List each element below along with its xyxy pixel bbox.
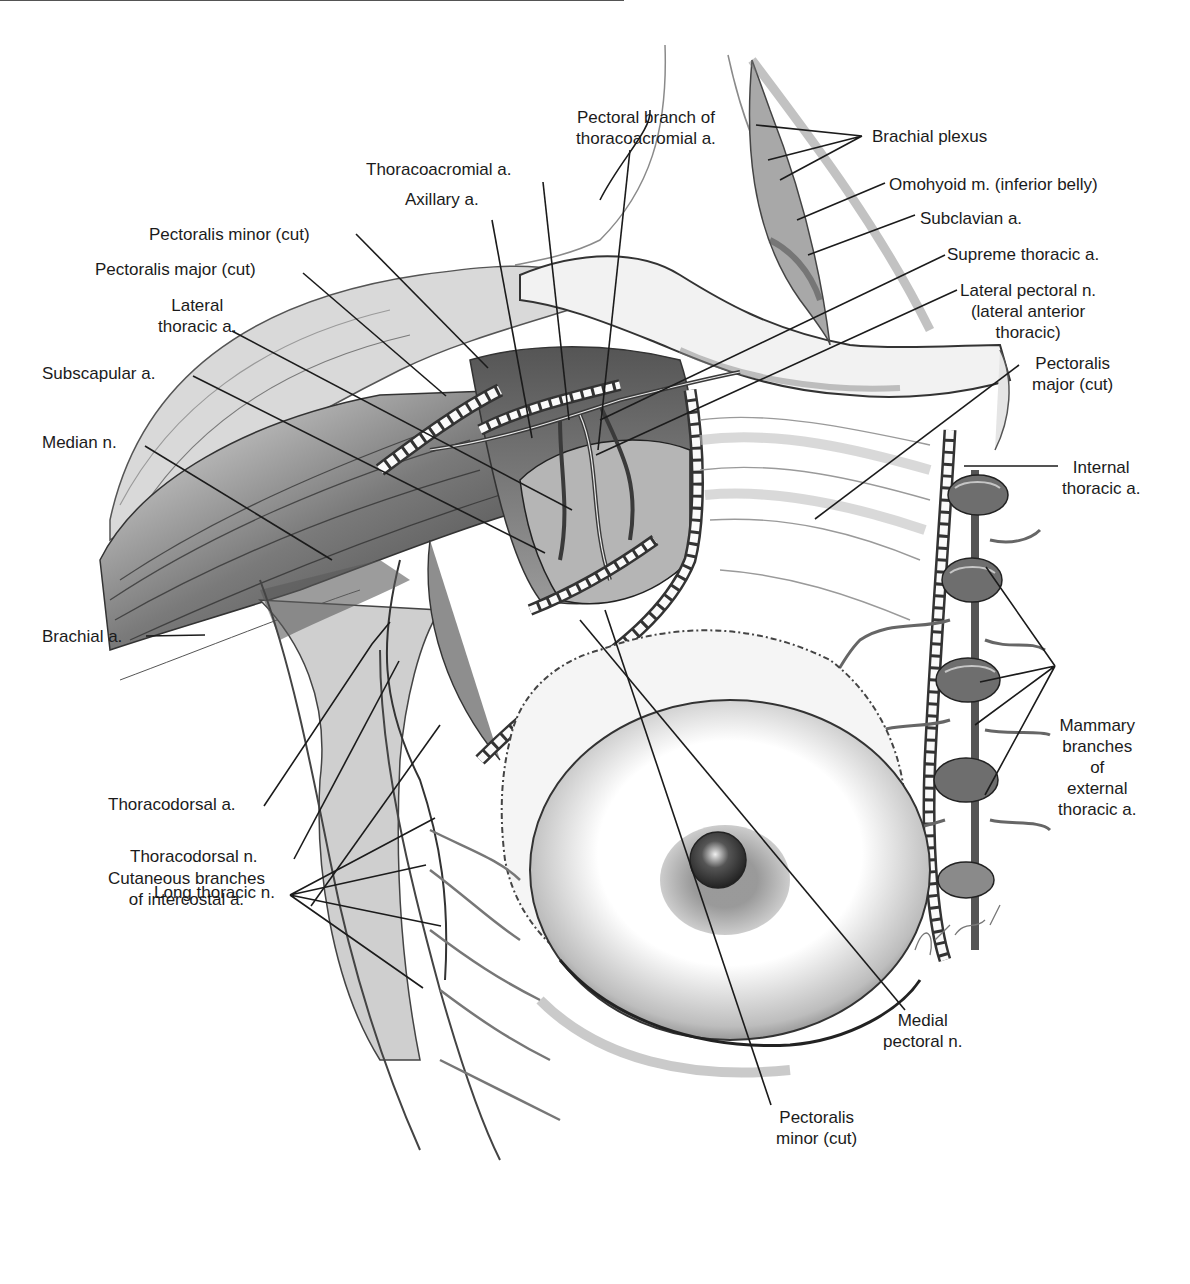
label-subclavian-artery: Subclavian a. xyxy=(920,208,1022,229)
label-thoracodorsal-nerve: Thoracodorsal n. xyxy=(130,846,258,867)
label-medial-pectoral-nerve: Medial pectoral n. xyxy=(883,1010,962,1052)
label-mammary-branches-external-thoracic: Mammary branches of external thoracic a. xyxy=(1058,715,1136,820)
label-supreme-thoracic-artery: Supreme thoracic a. xyxy=(947,244,1099,265)
label-internal-thoracic-artery: Internal thoracic a. xyxy=(1062,457,1140,499)
figure-caption-cropped xyxy=(0,1270,1190,1284)
label-thoracoacromial-artery: Thoracoacromial a. xyxy=(366,159,512,180)
label-pectoralis-major-cut-right: Pectoralis major (cut) xyxy=(1032,353,1113,395)
nipple xyxy=(690,832,746,888)
anatomical-figure: Pectoral branch of thoracoacromial a. Th… xyxy=(0,0,1190,1284)
label-median-nerve: Median n. xyxy=(42,432,117,453)
label-pectoral-branch-thoracoacromial: Pectoral branch of thoracoacromial a. xyxy=(576,107,716,149)
label-omohyoid-muscle: Omohyoid m. (inferior belly) xyxy=(889,174,1098,195)
neck-outline xyxy=(515,45,790,265)
label-thoracodorsal-artery: Thoracodorsal a. xyxy=(108,794,236,815)
label-pectoralis-minor-cut-upper: Pectoralis minor (cut) xyxy=(149,224,310,245)
supraclavicular-triangle xyxy=(749,60,830,345)
label-lateral-pectoral-nerve: Lateral pectoral n. (lateral anterior th… xyxy=(960,280,1096,343)
label-brachial-artery: Brachial a. xyxy=(42,626,122,647)
label-brachial-plexus: Brachial plexus xyxy=(872,126,987,147)
label-lateral-thoracic-artery: Lateral thoracic a. xyxy=(158,295,236,337)
label-subscapular-artery: Subscapular a. xyxy=(42,363,155,384)
label-pectoralis-minor-cut-lower: Pectoralis minor (cut) xyxy=(776,1107,857,1149)
artist-signature xyxy=(915,905,1000,955)
label-pectoralis-major-cut-left: Pectoralis major (cut) xyxy=(95,259,256,280)
label-cutaneous-branches-intercostal: Cutaneous branches of intercostal a. xyxy=(108,868,265,910)
label-axillary-artery: Axillary a. xyxy=(405,189,479,210)
